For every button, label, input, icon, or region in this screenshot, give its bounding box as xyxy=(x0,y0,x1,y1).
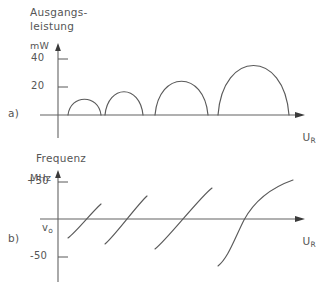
panel-b-y-axis-arrowhead xyxy=(55,170,61,178)
panel-b-ytick-label-zero-sub: o xyxy=(48,226,53,235)
panel-b-ytick-label-plus50: +50 xyxy=(27,175,49,186)
panel-b-segment-1 xyxy=(68,204,101,238)
panel-b-ytick-label-minus50: -50 xyxy=(30,250,47,261)
panel-b-x-axis-label-sub: R xyxy=(311,240,317,249)
panel-b-ytick-label-zero: vo xyxy=(28,211,53,246)
panel-b-x-axis-arrowhead xyxy=(295,216,305,222)
panel-b-label: b) xyxy=(8,232,19,244)
panel-b-x-axis-label-main: U xyxy=(303,235,311,247)
panel-b-segment-2 xyxy=(105,196,147,244)
figure-root: Ausgangs- leistung mW 40 20 a) UR Freque… xyxy=(0,0,324,298)
panel-b-segment-4 xyxy=(218,180,293,266)
panel-b-plot xyxy=(0,0,324,298)
panel-b-x-axis-label: UR xyxy=(288,223,316,261)
